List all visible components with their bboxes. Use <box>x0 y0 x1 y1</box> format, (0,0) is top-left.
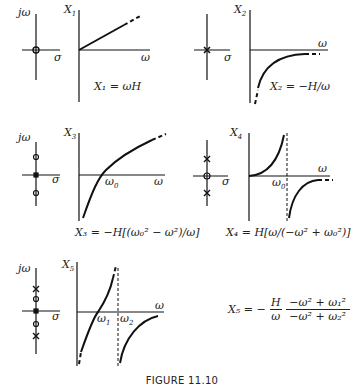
plot-x3 <box>79 133 166 221</box>
svg-text:X3: X3 <box>63 126 77 141</box>
figure-canvas: jω σ ω X1 σ ω X2 jω σ ω X3 ω0 σ ω X4 ω0 … <box>0 0 364 390</box>
equation-x5-frac1: H ω <box>270 296 282 323</box>
svg-text:ω0: ω0 <box>105 175 119 190</box>
equation-x5: X₅ = − H ω −ω² + ω₁² −ω² + ω₂² <box>228 296 350 323</box>
equation-x4: X₄ = H[ω/(−ω² + ω₀²)] <box>226 226 350 239</box>
svg-text:X1: X1 <box>63 3 76 18</box>
svg-text:ω: ω <box>318 162 327 175</box>
equation-x2: X₂ = −H/ω <box>270 80 330 93</box>
pz-plot-4 <box>193 140 228 206</box>
svg-text:ω2: ω2 <box>120 312 134 327</box>
pole-marker <box>34 173 38 177</box>
figure-caption: FIGURE 11.10 <box>0 375 364 386</box>
svg-text:ω0: ω0 <box>272 176 286 191</box>
equation-x1: X₁ = ωH <box>94 80 141 93</box>
equation-x5-frac2: −ω² + ω₁² −ω² + ω₂² <box>286 296 350 323</box>
svg-text:σ: σ <box>52 173 60 186</box>
svg-text:X4: X4 <box>229 126 242 141</box>
svg-text:ω: ω <box>155 299 164 312</box>
svg-text:σ: σ <box>54 51 62 64</box>
pz-plot-2 <box>194 14 230 80</box>
plot-x4 <box>249 133 333 222</box>
svg-text:ω: ω <box>318 37 327 50</box>
pz-plot-1 <box>22 14 60 80</box>
svg-text:jω: jω <box>15 131 30 144</box>
axis-labels: jω σ ω X1 σ ω X2 jω σ ω X3 ω0 σ ω X4 ω0 … <box>15 3 327 327</box>
svg-text:σ: σ <box>52 310 60 323</box>
svg-text:jω: jω <box>15 6 30 19</box>
equation-x5-lhs: X₅ = − <box>228 303 266 316</box>
pole-marker <box>34 309 38 313</box>
svg-text:X2: X2 <box>233 3 247 18</box>
svg-text:X5: X5 <box>61 258 75 273</box>
svg-text:σ: σ <box>222 175 230 188</box>
equation-x3: X₃ = −H[(ω₀² − ω²)/ω] <box>75 226 199 239</box>
svg-text:ω: ω <box>141 51 150 64</box>
svg-text:σ: σ <box>224 51 232 64</box>
svg-text:jω: jω <box>15 262 30 275</box>
svg-text:ω1: ω1 <box>97 312 110 327</box>
svg-text:ω: ω <box>154 175 163 188</box>
